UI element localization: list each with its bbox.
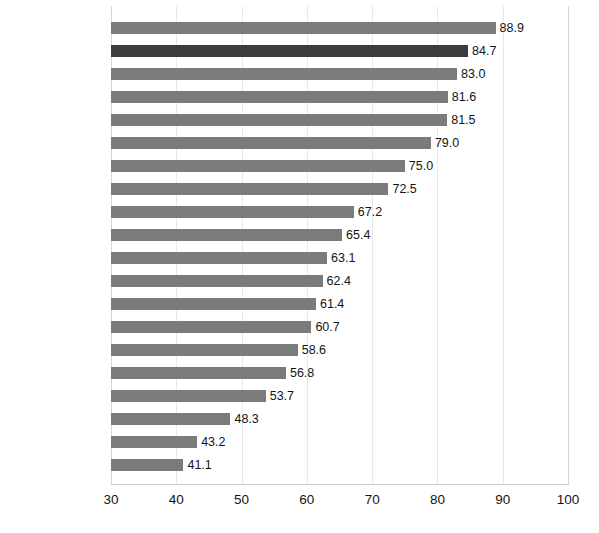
bar-row: Brazil62.4 xyxy=(0,270,599,293)
bar[interactable] xyxy=(111,160,405,172)
bar-row: Japan75.0 xyxy=(0,155,599,178)
bar-row: Iceland53.7 xyxy=(0,385,599,408)
bar[interactable] xyxy=(111,183,388,195)
bar[interactable] xyxy=(111,321,311,333)
x-tick-label-90: 90 xyxy=(473,492,533,507)
bar-value-label: 41.1 xyxy=(183,454,211,477)
bar-row: Serbia60.7 xyxy=(0,316,599,339)
bar[interactable] xyxy=(111,275,323,287)
bar-value-label: 75.0 xyxy=(405,155,433,178)
bar-row: China58.6 xyxy=(0,339,599,362)
bar-value-label: 63.1 xyxy=(327,247,355,270)
bar[interactable] xyxy=(111,45,468,57)
bar-chart: Australia88.9EU Top 484.7South Korea83.0… xyxy=(0,0,599,533)
bar[interactable] xyxy=(111,91,448,103)
x-axis-line xyxy=(111,484,569,485)
bar-value-label: 62.4 xyxy=(323,270,351,293)
bar-row: Chile61.4 xyxy=(0,293,599,316)
bar-value-label: 48.3 xyxy=(230,408,258,431)
bar[interactable] xyxy=(111,137,431,149)
x-tick-label-60: 60 xyxy=(277,492,337,507)
bar-row: South Korea83.0 xyxy=(0,63,599,86)
bar[interactable] xyxy=(111,390,266,402)
x-tick-label-40: 40 xyxy=(146,492,206,507)
bar-value-label: 81.6 xyxy=(448,86,476,109)
bar-value-label: 60.7 xyxy=(311,316,339,339)
bar-value-label: 61.4 xyxy=(316,293,344,316)
bar-value-label: 58.6 xyxy=(298,339,326,362)
bar-row: New Zealand81.6 xyxy=(0,86,599,109)
bar[interactable] xyxy=(111,436,197,448)
bar-value-label: 79.0 xyxy=(431,132,459,155)
bar-row: Mexico67.2 xyxy=(0,201,599,224)
bar[interactable] xyxy=(111,367,286,379)
bar-value-label: 56.8 xyxy=(286,362,314,385)
bar-value-label: 83.0 xyxy=(457,63,485,86)
bar-row: EU Bottom 441.1 xyxy=(0,454,599,477)
bar[interactable] xyxy=(111,68,457,80)
bar-row: Switzerland48.3 xyxy=(0,408,599,431)
bar[interactable] xyxy=(111,22,496,34)
x-tick-label-70: 70 xyxy=(342,492,402,507)
bar[interactable] xyxy=(111,298,316,310)
bar-value-label: 53.7 xyxy=(266,385,294,408)
bar-value-label: 67.2 xyxy=(354,201,382,224)
bar-row: EU Top 484.7 xyxy=(0,40,599,63)
bar[interactable] xyxy=(111,206,354,218)
bar-row: Israel65.4 xyxy=(0,224,599,247)
bar-value-label: 72.5 xyxy=(388,178,416,201)
bar-value-label: 88.9 xyxy=(496,17,524,40)
bar-row: Australia88.9 xyxy=(0,17,599,40)
bar-value-label: 43.2 xyxy=(197,431,225,454)
bar-row: Canada81.5 xyxy=(0,109,599,132)
bar[interactable] xyxy=(111,252,327,264)
bar[interactable] xyxy=(111,114,447,126)
bar-row: Turkey43.2 xyxy=(0,431,599,454)
x-tick-label-30: 30 xyxy=(81,492,141,507)
bar[interactable] xyxy=(111,459,183,471)
bar-row: USA79.0 xyxy=(0,132,599,155)
x-tick-label-80: 80 xyxy=(407,492,467,507)
bar[interactable] xyxy=(111,229,342,241)
bar-row: EU Average63.1 xyxy=(0,247,599,270)
x-tick-label-100: 100 xyxy=(538,492,598,507)
x-tick-label-50: 50 xyxy=(212,492,272,507)
bar[interactable] xyxy=(111,413,230,425)
bar-value-label: 81.5 xyxy=(447,109,475,132)
bar-value-label: 65.4 xyxy=(342,224,370,247)
bar-row: Russia56.8 xyxy=(0,362,599,385)
bar-value-label: 84.7 xyxy=(468,40,496,63)
bar[interactable] xyxy=(111,344,298,356)
bar-row: Norway72.5 xyxy=(0,178,599,201)
